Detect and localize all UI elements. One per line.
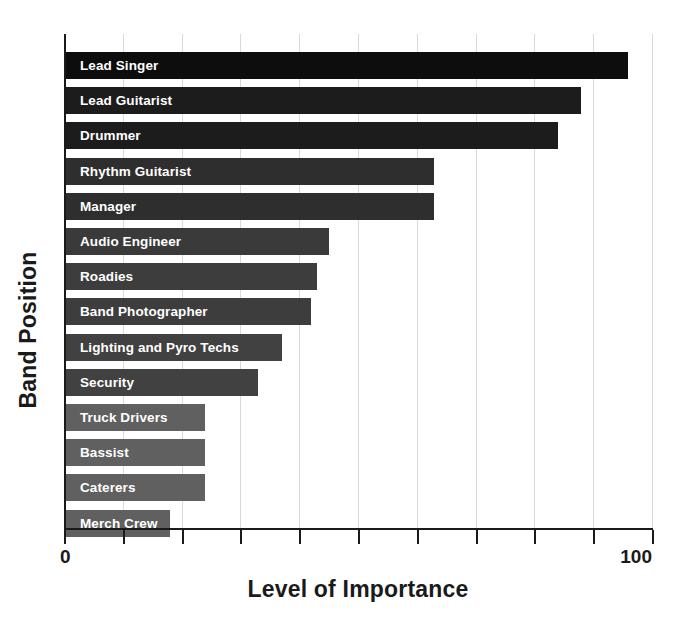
plot-area: Lead SingerLead GuitaristDrummerRhythm G… xyxy=(64,34,652,529)
x-axis-tick xyxy=(476,530,478,544)
bar: Lead Guitarist xyxy=(64,87,581,114)
bar-label: Band Photographer xyxy=(80,304,208,319)
bar-label: Bassist xyxy=(80,445,129,460)
x-axis-tick xyxy=(182,530,184,544)
x-axis-tick xyxy=(299,530,301,544)
bar-label: Roadies xyxy=(80,269,133,284)
bar: Drummer xyxy=(64,122,558,149)
bar-chart-figure: Band Position Lead SingerLead GuitaristD… xyxy=(0,0,688,628)
bar: Lighting and Pyro Techs xyxy=(64,334,282,361)
x-axis-tick xyxy=(652,530,654,544)
bar: Audio Engineer xyxy=(64,228,329,255)
bar-label: Caterers xyxy=(80,480,136,495)
x-axis-title: Level of Importance xyxy=(64,576,652,603)
bar: Roadies xyxy=(64,263,317,290)
x-axis-tick xyxy=(534,530,536,544)
x-axis-tick-label: 100 xyxy=(620,546,652,568)
bar-label: Manager xyxy=(80,199,136,214)
bar-label: Lead Guitarist xyxy=(80,93,172,108)
x-axis-tick xyxy=(240,530,242,544)
bar: Lead Singer xyxy=(64,52,628,79)
bar-label: Audio Engineer xyxy=(80,234,181,249)
bar-label: Lead Singer xyxy=(80,58,158,73)
bar: Truck Drivers xyxy=(64,404,205,431)
bar-label: Security xyxy=(80,375,134,390)
gridline xyxy=(652,34,653,529)
bar: Manager xyxy=(64,193,434,220)
bar: Band Photographer xyxy=(64,298,311,325)
x-axis-tick-label: 0 xyxy=(60,546,71,568)
y-axis-line xyxy=(64,34,66,530)
bar: Merch Crew xyxy=(64,510,170,537)
bar-label: Truck Drivers xyxy=(80,410,168,425)
bar: Security xyxy=(64,369,258,396)
x-axis-tick xyxy=(64,530,66,544)
x-axis-tick xyxy=(593,530,595,544)
y-axis-title: Band Position xyxy=(0,0,56,628)
bar-label: Lighting and Pyro Techs xyxy=(80,340,239,355)
bar-label: Rhythm Guitarist xyxy=(80,164,191,179)
gridline xyxy=(593,34,594,529)
bar: Rhythm Guitarist xyxy=(64,158,434,185)
x-axis-tick xyxy=(123,530,125,544)
bar: Bassist xyxy=(64,439,205,466)
x-axis-tick xyxy=(417,530,419,544)
bar-label: Drummer xyxy=(80,128,141,143)
y-axis-title-text: Band Position xyxy=(15,251,42,408)
x-axis-tick xyxy=(358,530,360,544)
bar: Caterers xyxy=(64,474,205,501)
